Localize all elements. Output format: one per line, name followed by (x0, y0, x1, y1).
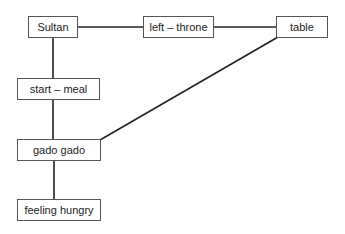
node-gado-gado: gado gado (17, 139, 101, 161)
node-sultan: Sultan (28, 16, 78, 38)
node-feeling-hungry: feeling hungry (17, 199, 101, 221)
node-start-meal: start – meal (17, 78, 100, 100)
node-left-throne: left – throne (143, 16, 214, 38)
node-label: start – meal (30, 83, 87, 95)
node-table: table (276, 16, 328, 38)
node-label: feeling hungry (24, 204, 93, 216)
node-label: table (290, 21, 314, 33)
node-label: Sultan (37, 21, 68, 33)
node-label: gado gado (33, 144, 85, 156)
edge-table-gado-gado (100, 37, 278, 140)
node-label: left – throne (149, 21, 207, 33)
concept-map-canvas: Sultan left – throne table start – meal … (0, 0, 345, 234)
